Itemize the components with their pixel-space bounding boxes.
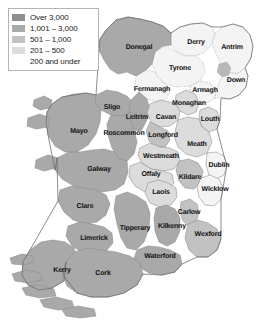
legend-swatch-501-1000	[12, 36, 25, 43]
county-label-westmeath: Westmeath	[143, 153, 179, 160]
legend-swatch-200-and-under	[12, 58, 25, 65]
county-label-tipperary: Tipperary	[120, 225, 150, 232]
county-label-cavan: Cavan	[156, 114, 176, 121]
map-figure: Donegal Derry Antrim Tyrone Fermanagh Ar…	[0, 0, 268, 322]
county-label-meath: Meath	[187, 141, 206, 148]
county-label-kilkenny: Kilkenny	[158, 223, 186, 230]
county-shape-mayo[interactable]	[46, 93, 101, 152]
county-label-tyrone: Tyrone	[169, 65, 191, 72]
county-label-antrim: Antrim	[221, 44, 243, 51]
map-legend: Over 3,000 1,001 – 3,000 501 – 1,000 201…	[8, 8, 99, 71]
county-label-clare: Clare	[77, 203, 94, 210]
county-label-waterford: Waterford	[144, 253, 175, 260]
legend-label-over-3000: Over 3,000	[30, 14, 69, 22]
county-label-limerick: Limerick	[80, 235, 108, 242]
county-label-kildare: Kildare	[179, 174, 202, 181]
legend-row-over-3000: Over 3,000	[12, 12, 94, 23]
county-label-monaghan: Monaghan	[172, 100, 206, 107]
county-label-armagh: Armagh	[192, 87, 218, 94]
county-label-dublin: Dublin	[209, 162, 230, 169]
county-label-carlow: Carlow	[178, 209, 200, 216]
county-label-louth: Louth	[201, 116, 220, 123]
legend-row-1001-3000: 1,001 – 3,000	[12, 23, 94, 34]
county-label-longford: Longford	[148, 132, 178, 139]
legend-label-501-1000: 501 – 1,000	[30, 36, 71, 44]
legend-swatch-201-500	[12, 47, 25, 54]
county-label-wexford: Wexford	[195, 231, 222, 238]
county-label-down: Down	[227, 77, 245, 84]
county-label-leitrim: Leitrim	[126, 114, 148, 121]
county-label-roscommon: Roscommon	[103, 130, 144, 137]
legend-label-201-500: 201 – 500	[30, 47, 65, 55]
legend-label-200-and-under: 200 and under	[30, 58, 80, 66]
legend-swatch-over-3000	[12, 14, 25, 21]
legend-row-201-500: 201 – 500	[12, 45, 94, 56]
county-label-derry: Derry	[187, 39, 205, 46]
legend-label-1001-3000: 1,001 – 3,000	[30, 25, 78, 33]
county-label-donegal: Donegal	[126, 44, 153, 51]
county-label-galway: Galway	[87, 166, 111, 173]
legend-row-200-and-under: 200 and under	[12, 56, 94, 67]
county-label-kerry: Kerry	[53, 267, 71, 274]
legend-row-501-1000: 501 – 1,000	[12, 34, 94, 45]
county-label-laois: Laois	[152, 189, 170, 196]
county-label-mayo: Mayo	[70, 128, 87, 135]
county-label-fermanagh: Fermanagh	[134, 86, 170, 93]
county-label-cork: Cork	[95, 270, 110, 277]
county-label-offaly: Offaly	[142, 171, 161, 178]
legend-swatch-1001-3000	[12, 25, 25, 32]
county-label-wicklow: Wicklow	[202, 186, 229, 193]
county-label-sligo: Sligo	[104, 104, 120, 111]
county-shape-tipperary[interactable]	[114, 192, 150, 250]
